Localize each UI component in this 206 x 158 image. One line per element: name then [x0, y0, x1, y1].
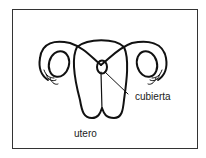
right-ovary [134, 49, 160, 79]
label-cubierta: cubierta [135, 91, 171, 102]
uterus-illustration [0, 0, 206, 158]
central-oval [97, 61, 107, 74]
cubierta-leader-line [105, 72, 128, 94]
label-utero: utero [74, 128, 97, 139]
left-ovary [46, 49, 72, 79]
uterus-midline [101, 72, 102, 110]
uterus-body [74, 40, 127, 118]
